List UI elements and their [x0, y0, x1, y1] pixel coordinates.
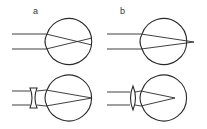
eye-a-corrected — [12, 75, 92, 121]
refracted-ray-top — [141, 91, 175, 98]
refracted-ray-bottom — [46, 98, 92, 106]
diverged-ray-bottom — [37, 105, 46, 106]
refracted-ray-bottom — [141, 98, 175, 106]
eye-refraction-diagram: a b — [0, 0, 207, 129]
eye-b-corrected — [107, 75, 187, 121]
eye-a-uncorrected — [12, 19, 92, 65]
convex-lens-icon — [131, 86, 136, 110]
diverged-ray-top — [37, 90, 46, 91]
eye-b-uncorrected — [107, 19, 194, 65]
eyeball-outline — [45, 75, 92, 121]
eyeball-outline — [140, 19, 187, 65]
refracted-ray-top — [46, 90, 92, 98]
converged-ray-top — [135, 91, 141, 92]
converged-ray-bottom — [135, 105, 141, 106]
eyeball-outline — [140, 75, 187, 121]
diagram-figure — [0, 0, 207, 129]
concave-lens-icon — [30, 88, 37, 108]
eyeball-outline — [45, 19, 92, 65]
